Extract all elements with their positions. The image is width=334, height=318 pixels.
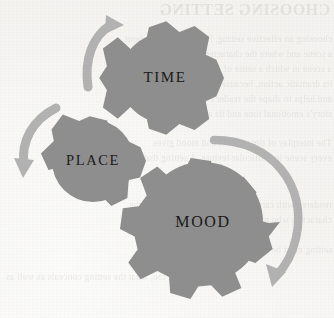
- setting-gears-diagram: TIME PLACE MOOD: [0, 0, 334, 318]
- gear-mood: MOOD: [120, 158, 280, 299]
- gear-place: PLACE: [41, 115, 146, 206]
- gear-place-label: PLACE: [66, 152, 120, 168]
- gear-mood-label: MOOD: [175, 213, 230, 230]
- scanned-page: CHOOSING SETTING choosing an effective s…: [0, 0, 334, 318]
- gear-time-label: TIME: [143, 69, 186, 85]
- gear-time: TIME: [99, 21, 224, 134]
